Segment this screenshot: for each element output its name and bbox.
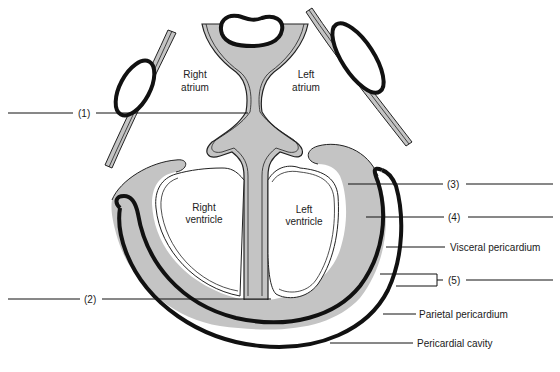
label-right-atrium-2: atrium — [181, 82, 209, 93]
label-parietal-pericardium: Parietal pericardium — [419, 309, 508, 320]
label-right-atrium: Right — [183, 69, 207, 80]
callout-3: (3) — [447, 179, 459, 190]
left-vessel-cross-section — [323, 16, 393, 101]
label-right-ventricle: Right — [192, 202, 216, 213]
label-left-atrium-2: atrium — [292, 82, 320, 93]
heart-pericardium-diagram: Right atrium Left atrium Right ventricle… — [0, 0, 560, 372]
label-left-ventricle: Left — [296, 204, 313, 215]
label-left-atrium: Left — [298, 69, 315, 80]
callout-5: (5) — [448, 275, 460, 286]
label-left-ventricle-2: ventricle — [285, 216, 323, 227]
callout-4: (4) — [448, 212, 460, 223]
label-right-ventricle-2: ventricle — [185, 214, 223, 225]
aorta-cross-section — [221, 16, 282, 46]
label-pericardial-cavity: Pericardial cavity — [417, 338, 493, 349]
right-vessel-cross-section — [108, 54, 163, 121]
callout-1: (1) — [78, 108, 90, 119]
callout-2: (2) — [84, 294, 96, 305]
label-visceral-pericardium: Visceral pericardium — [450, 242, 540, 253]
